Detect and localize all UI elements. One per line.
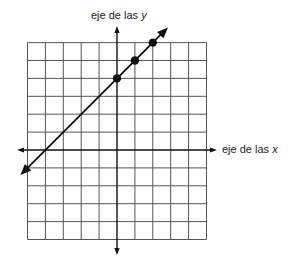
y-axis-arrow-up-icon <box>114 26 119 33</box>
y-axis-arrow-down-icon <box>114 248 119 255</box>
data-point <box>113 74 121 82</box>
data-point <box>131 56 139 64</box>
coordinate-plane <box>0 0 288 264</box>
y-axis-label-text: eje de las <box>91 9 138 21</box>
x-axis-arrow-right-icon <box>210 147 217 152</box>
data-point <box>149 38 157 46</box>
y-axis-label: eje de las y <box>91 9 147 21</box>
x-axis-label-var: x <box>272 143 278 155</box>
x-axis-label: eje de las x <box>222 143 278 155</box>
y-axis-label-var: y <box>141 9 147 21</box>
x-axis-label-text: eje de las <box>222 143 269 155</box>
x-axis-arrow-left-icon <box>17 147 24 152</box>
